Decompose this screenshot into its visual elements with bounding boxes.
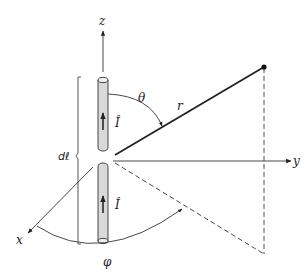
- element-length-label: dℓ: [58, 150, 70, 163]
- projection-xy: [115, 163, 264, 254]
- length-bracket: dℓ: [58, 77, 81, 244]
- field-point: [261, 64, 266, 69]
- y-axis: y: [113, 154, 300, 168]
- upper-rod: [98, 77, 108, 151]
- z-axis: z: [98, 14, 106, 72]
- current-label-lower: Î: [114, 197, 121, 212]
- radius-vector: r: [115, 67, 264, 155]
- r-label: r: [177, 99, 184, 113]
- x-axis-label: x: [16, 233, 23, 247]
- theta-label: θ: [138, 91, 146, 105]
- x-axis: x: [16, 167, 93, 247]
- phi-label: φ: [103, 255, 112, 269]
- current-label-upper: Î: [114, 115, 121, 130]
- phi-arc: φ: [37, 209, 182, 269]
- dipole-diagram: z y x r Î Î θ φ dℓ: [0, 0, 305, 277]
- lower-rod: [98, 163, 108, 244]
- y-axis-label: y: [292, 154, 300, 168]
- z-axis-label: z: [98, 14, 106, 28]
